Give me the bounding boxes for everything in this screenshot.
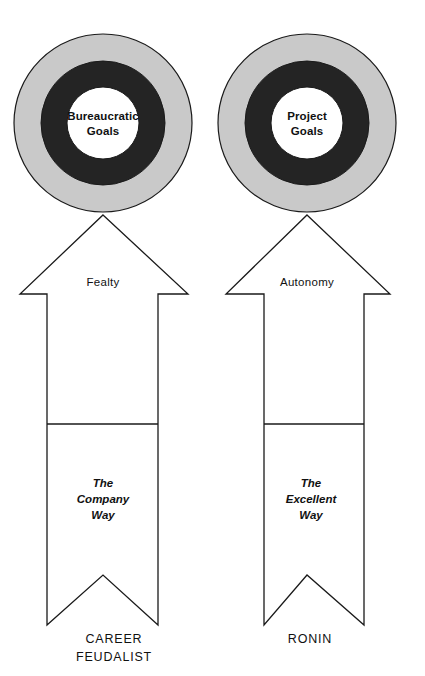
target-ring-inner-left <box>67 87 139 159</box>
target-label-left-line2: Goals <box>87 125 119 137</box>
comparison-diagram: Bureaucratic Goals Fealty The Company Wa… <box>0 0 425 676</box>
column-career-feudalist: Bureaucratic Goals Fealty The Company Wa… <box>14 34 192 664</box>
arrow-label-left: Fealty <box>86 276 119 288</box>
ribbon-label-left-line1: The <box>93 477 114 489</box>
caption-left-line2: FEUDALIST <box>76 650 152 664</box>
diagram-canvas: Bureaucratic Goals Fealty The Company Wa… <box>0 0 425 676</box>
caption-right-line1: RONIN <box>288 632 332 646</box>
arrow-label-right: Autonomy <box>280 276 334 288</box>
ribbon-label-right-line1: The <box>301 477 322 489</box>
caption-left-line1: CAREER <box>86 632 143 646</box>
target-label-right-line1: Project <box>287 110 327 122</box>
ribbon-label-left-line3: Way <box>91 509 115 521</box>
target-label-left-line1: Bureaucratic <box>67 110 139 122</box>
target-label-right-line2: Goals <box>291 125 323 137</box>
ribbon-label-left-line2: Company <box>77 493 130 505</box>
target-ring-inner-right <box>271 87 343 159</box>
ribbon-label-right-line3: Way <box>299 509 323 521</box>
ribbon-label-right-line2: Excellent <box>286 493 338 505</box>
column-ronin: Project Goals Autonomy The Excellent Way… <box>218 34 396 646</box>
